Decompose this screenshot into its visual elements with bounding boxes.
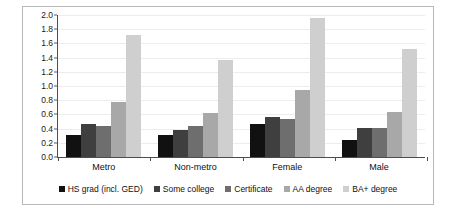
y-axis-tick-label: 1.6	[27, 39, 53, 48]
y-axis-tick-label: 0.8	[27, 96, 53, 105]
y-axis-tick-label: 2.0	[27, 11, 53, 20]
legend-label: Some college	[163, 185, 215, 194]
x-axis-category-label: Female	[242, 160, 334, 174]
legend-swatch-icon	[225, 186, 231, 192]
legend-item[interactable]: Some college	[154, 185, 215, 194]
bar[interactable]	[280, 119, 295, 157]
bar[interactable]	[357, 128, 372, 157]
bar-group	[242, 15, 334, 157]
y-axis-tick-mark	[54, 15, 57, 16]
x-axis-category-label: Metro	[58, 160, 150, 174]
y-axis-tick-mark	[54, 100, 57, 101]
bar[interactable]	[218, 60, 233, 157]
y-axis-tick-mark	[54, 142, 57, 143]
y-axis-tick-label: 0.2	[27, 139, 53, 148]
bar[interactable]	[372, 128, 387, 157]
bar[interactable]	[295, 90, 310, 157]
y-axis-tick-label: 0.4	[27, 124, 53, 133]
bar[interactable]	[342, 140, 357, 157]
legend-item[interactable]: HS grad (incl. GED)	[59, 185, 143, 194]
bar-groups	[58, 15, 425, 157]
bar[interactable]	[126, 35, 141, 157]
x-axis-tick-mark	[150, 157, 151, 161]
bar[interactable]	[173, 130, 188, 157]
y-axis-tick-mark	[54, 114, 57, 115]
x-axis-category-label: Non-metro	[150, 160, 242, 174]
y-axis-tick-label: 1.8	[27, 25, 53, 34]
y-axis-tick-label: 0.6	[27, 110, 53, 119]
bar[interactable]	[310, 18, 325, 157]
x-axis-tick-mark	[58, 157, 59, 161]
bar[interactable]	[158, 135, 173, 157]
legend-label: Certificate	[234, 185, 272, 194]
x-axis-tick-mark	[243, 157, 244, 161]
x-axis-category-labels: MetroNon-metroFemaleMale	[58, 160, 425, 174]
bar-group	[333, 15, 425, 157]
bar[interactable]	[66, 135, 81, 157]
bar[interactable]	[250, 124, 265, 157]
legend-item[interactable]: AA degree	[284, 185, 333, 194]
bar-group	[150, 15, 242, 157]
bar[interactable]	[265, 117, 280, 157]
y-axis-tick-label: 1.4	[27, 53, 53, 62]
legend-item[interactable]: Certificate	[225, 185, 272, 194]
bar[interactable]	[81, 124, 96, 157]
plot-wrapper: 0.00.20.40.60.81.01.21.41.61.82.0 MetroN…	[23, 7, 433, 204]
x-axis-category-label: Male	[333, 160, 425, 174]
chart-legend: HS grad (incl. GED)Some collegeCertifica…	[27, 181, 429, 197]
bar[interactable]	[111, 102, 126, 157]
y-axis-tick-mark	[54, 128, 57, 129]
y-axis-tick-mark	[54, 29, 57, 30]
y-axis-tick-labels: 0.00.20.40.60.81.01.21.41.61.82.0	[27, 15, 53, 157]
bar[interactable]	[96, 126, 111, 157]
chart-container: 0.00.20.40.60.81.01.21.41.61.82.0 MetroN…	[22, 6, 434, 205]
legend-swatch-icon	[284, 186, 290, 192]
legend-swatch-icon	[59, 186, 65, 192]
x-axis-tick-mark	[335, 157, 336, 161]
bar-group	[58, 15, 150, 157]
y-axis-tick-mark	[54, 71, 57, 72]
y-axis-tick-mark	[54, 43, 57, 44]
bar[interactable]	[387, 112, 402, 157]
legend-label: HS grad (incl. GED)	[68, 185, 143, 194]
x-axis-line	[57, 157, 425, 158]
y-axis-tick-mark	[54, 86, 57, 87]
y-axis-tick-mark	[54, 157, 57, 158]
legend-swatch-icon	[154, 186, 160, 192]
y-axis-tick-mark	[54, 57, 57, 58]
y-axis-tick-label: 1.2	[27, 68, 53, 77]
legend-swatch-icon	[343, 186, 349, 192]
bar[interactable]	[402, 49, 417, 157]
y-axis-tick-label: 0.0	[27, 153, 53, 162]
legend-label: AA degree	[293, 185, 333, 194]
x-axis-tick-mark	[427, 157, 428, 161]
legend-label: BA+ degree	[352, 185, 397, 194]
legend-item[interactable]: BA+ degree	[343, 185, 397, 194]
bar[interactable]	[203, 113, 218, 157]
y-axis-tick-label: 1.0	[27, 82, 53, 91]
bar[interactable]	[188, 126, 203, 157]
